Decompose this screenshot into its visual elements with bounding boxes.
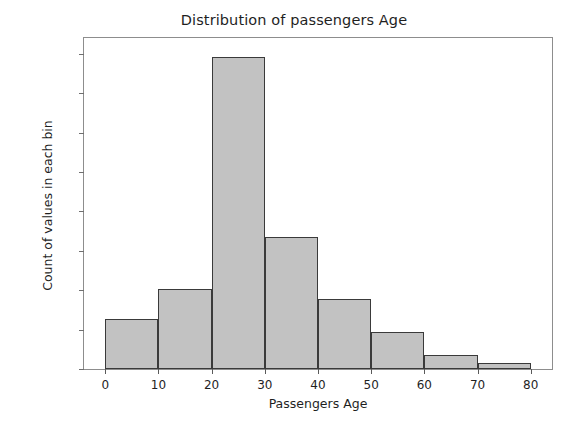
histogram-bar	[318, 299, 371, 369]
chart-title: Distribution of passengers Age	[0, 12, 588, 28]
x-axis-tick-label: 10	[138, 379, 178, 391]
x-axis-tick-label: 30	[245, 379, 285, 391]
histogram-bar	[371, 332, 424, 369]
x-axis-tick	[158, 369, 159, 374]
y-axis-tick	[79, 211, 84, 212]
histogram-bar	[105, 319, 158, 369]
x-axis-tick-label: 50	[351, 379, 391, 391]
x-axis-tick	[531, 369, 532, 374]
y-axis-tick	[79, 251, 84, 252]
plot-area: 0102030405060708005010015020025030035040…	[83, 37, 553, 370]
y-axis-tick	[79, 133, 84, 134]
histogram-bar	[424, 355, 477, 369]
x-axis-tick-label: 80	[511, 379, 551, 391]
x-axis-tick	[265, 369, 266, 374]
x-axis-tick-label: 40	[298, 379, 338, 391]
y-axis-tick	[79, 54, 84, 55]
x-axis-tick-label: 0	[85, 379, 125, 391]
y-axis-tick	[79, 93, 84, 94]
histogram-bar	[478, 363, 531, 369]
y-axis-tick	[79, 172, 84, 173]
x-axis-tick	[424, 369, 425, 374]
x-axis-tick-label: 60	[404, 379, 444, 391]
histogram-bar	[158, 289, 211, 369]
x-axis-label: Passengers Age	[83, 396, 553, 411]
x-axis-tick-label: 70	[458, 379, 498, 391]
x-axis-tick	[105, 369, 106, 374]
x-axis-tick	[478, 369, 479, 374]
y-axis-label: Count of values in each bin	[40, 56, 55, 356]
x-axis-tick	[212, 369, 213, 374]
x-axis-tick	[371, 369, 372, 374]
figure-canvas: Distribution of passengers Age Count of …	[0, 0, 588, 428]
y-axis-tick	[79, 369, 84, 370]
histogram-bar	[212, 57, 265, 369]
y-axis-tick	[79, 290, 84, 291]
y-axis-tick	[79, 330, 84, 331]
x-axis-tick-label: 20	[192, 379, 232, 391]
x-axis-tick	[318, 369, 319, 374]
histogram-bar	[265, 237, 318, 369]
